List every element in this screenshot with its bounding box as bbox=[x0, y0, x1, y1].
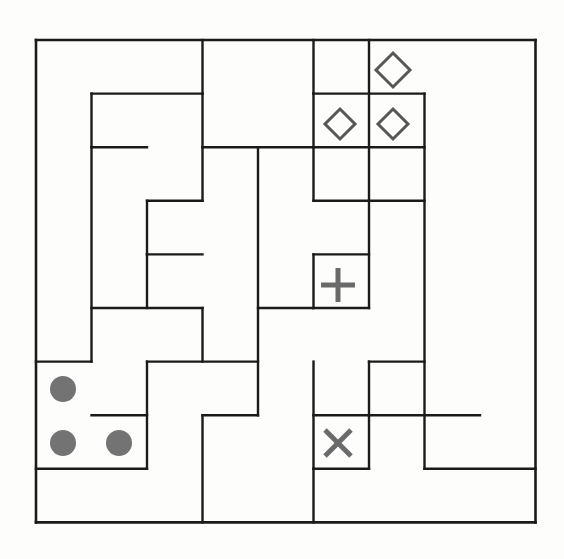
filled-circle-icon bbox=[50, 430, 76, 456]
maze-diagram bbox=[0, 0, 564, 559]
filled-circle-icon bbox=[50, 376, 76, 402]
puzzle-stage bbox=[0, 0, 564, 559]
filled-circle-icon bbox=[106, 430, 132, 456]
marker-dot-lower-left bbox=[50, 430, 76, 456]
canvas-background bbox=[0, 0, 564, 559]
marker-dot-lower-right bbox=[106, 430, 132, 456]
marker-dot-upper-left bbox=[50, 376, 76, 402]
